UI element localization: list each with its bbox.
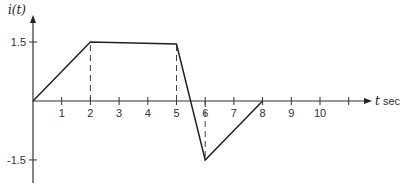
x-axis-label-var: t [375, 94, 380, 108]
y-tick-label: 1.5 [11, 36, 26, 48]
x-tick-label: 2 [87, 107, 93, 119]
x-tick-label: 4 [145, 107, 151, 119]
axis-labels: 123456789101.5-1.5i(t)tsec [7, 3, 400, 166]
axes [29, 15, 372, 183]
x-tick-label: 5 [173, 107, 179, 119]
current-waveform-chart: 123456789101.5-1.5i(t)tsec [0, 0, 400, 192]
x-tick-label: 7 [231, 107, 237, 119]
y-axis-arrow-icon [30, 15, 36, 23]
x-tick-label: 1 [59, 107, 65, 119]
x-tick-label: 8 [260, 107, 266, 119]
x-tick-label: 10 [314, 107, 326, 119]
x-axis-label-unit: sec [383, 95, 400, 107]
y-tick-label: -1.5 [7, 154, 26, 166]
x-tick-label: 3 [116, 107, 122, 119]
x-axis-arrow-icon [364, 98, 372, 104]
y-axis-label: i(t) [8, 3, 26, 17]
x-tick-label: 9 [288, 107, 294, 119]
x-tick-label: 6 [202, 107, 208, 119]
